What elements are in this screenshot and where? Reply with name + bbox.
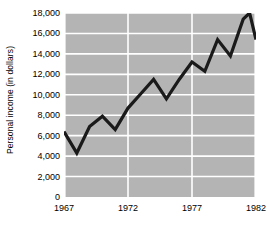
y-axis-title: Personal income (in dollars)	[0, 0, 20, 200]
y-tick-label: 12,000	[32, 69, 60, 79]
x-axis-tick-labels: 1967197219771982	[64, 203, 256, 219]
y-tick-label: 0	[55, 192, 60, 202]
x-tick-label: 1967	[54, 203, 74, 213]
plot-area-wrapper	[64, 13, 256, 197]
y-tick-label: 10,000	[32, 90, 60, 100]
line-chart-figure: Personal income (in dollars) 02,0004,000…	[0, 0, 270, 238]
horizontal-gridlines	[64, 13, 256, 177]
y-tick-label: 6,000	[37, 131, 60, 141]
y-axis-title-label: Personal income (in dollars)	[5, 46, 15, 154]
plot-svg	[64, 13, 256, 197]
x-tick-label: 1977	[182, 203, 202, 213]
y-tick-label: 14,000	[32, 49, 60, 59]
y-tick-label: 4,000	[37, 151, 60, 161]
y-tick-label: 8,000	[37, 110, 60, 120]
y-tick-label: 16,000	[32, 28, 60, 38]
y-tick-label: 18,000	[32, 8, 60, 18]
x-tick-label: 1982	[246, 203, 266, 213]
x-tick-label: 1972	[118, 203, 138, 213]
vertical-gridlines	[65, 13, 255, 197]
y-tick-label: 2,000	[37, 172, 60, 182]
y-axis-tick-labels: 02,0004,0006,0008,00010,00012,00014,0001…	[18, 13, 60, 197]
